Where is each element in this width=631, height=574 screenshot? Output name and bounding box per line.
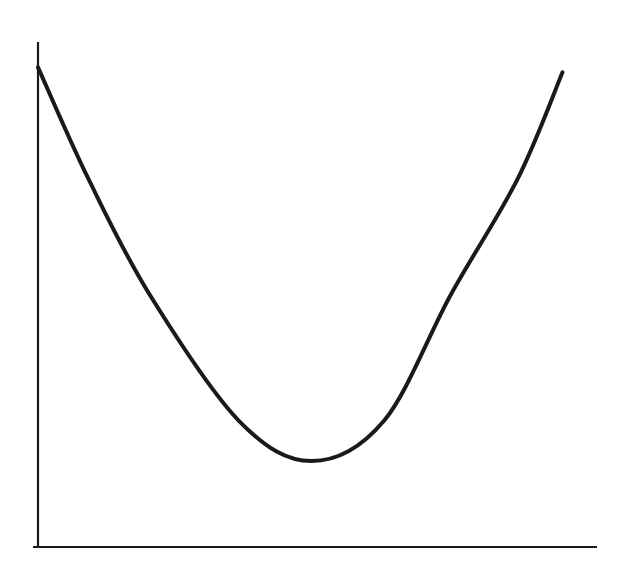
line-chart <box>0 0 631 574</box>
u-shaped-curve <box>38 67 563 461</box>
chart-container <box>0 0 631 574</box>
